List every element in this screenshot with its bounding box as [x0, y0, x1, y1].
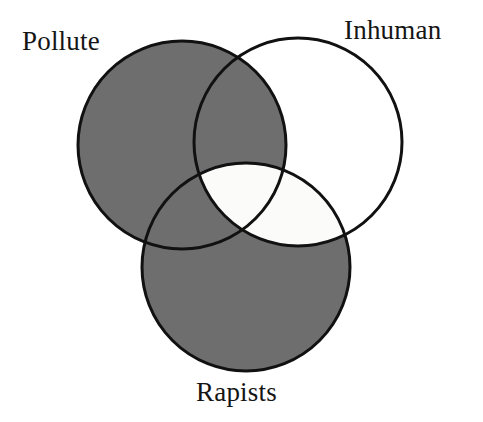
venn-label-pollute: Pollute [22, 28, 100, 55]
venn-label-inhuman: Inhuman [344, 17, 441, 44]
venn-diagram-canvas [0, 0, 483, 422]
venn-diagram: Pollute Inhuman Rapists [0, 0, 483, 422]
venn-label-rapists: Rapists [196, 379, 277, 406]
